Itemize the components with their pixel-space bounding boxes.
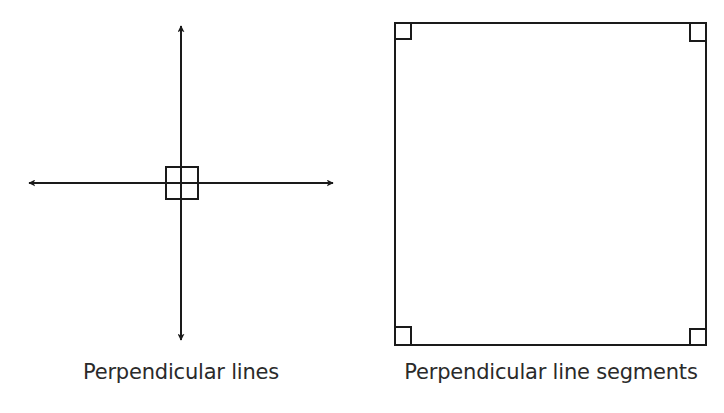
perpendicular-lines-figure <box>29 26 333 340</box>
perpendicular-segments-figure <box>395 23 706 345</box>
square-outline <box>395 23 706 345</box>
right-angle-marker-top-left <box>395 23 411 39</box>
right-angle-marker-bottom-left <box>395 327 411 345</box>
right-angle-marker-bottom-right <box>690 329 706 345</box>
perpendicular-segments-caption: Perpendicular line segments <box>404 360 697 384</box>
right-angle-marker-top-right <box>690 23 706 41</box>
perpendicular-lines-caption: Perpendicular lines <box>83 360 279 384</box>
diagram-canvas <box>0 0 724 413</box>
